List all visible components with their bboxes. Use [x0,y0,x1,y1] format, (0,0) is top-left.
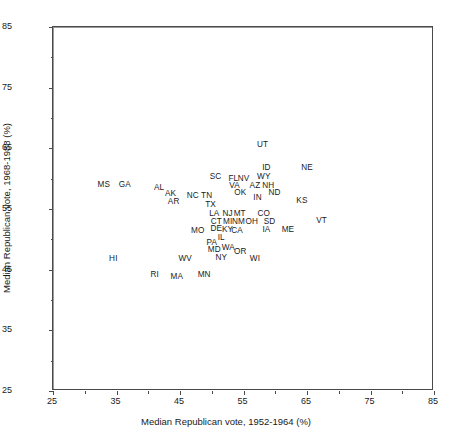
x-tick [212,391,213,394]
x-tick [307,391,308,395]
x-tick [180,391,181,395]
y-tick [49,391,53,392]
state-label-il: IL [218,233,225,241]
x-tick [148,391,149,394]
state-label-mn: MN [198,270,211,278]
y-tick [51,300,54,301]
state-label-id: ID [262,164,270,172]
state-label-wv: WV [178,255,191,263]
state-label-tn: TN [201,192,212,200]
x-tick [371,391,372,395]
y-tick [49,209,53,210]
x-tick-label: 85 [428,396,438,406]
state-label-nd: ND [269,189,281,197]
reference-line-vertical [53,27,54,389]
x-tick-label: 45 [174,396,184,406]
y-tick [51,361,54,362]
state-label-mo: MO [191,227,204,235]
state-label-hi: HI [109,255,117,263]
y-tick [51,57,54,58]
state-label-nc: NC [187,192,199,200]
state-label-ok: OK [234,189,246,197]
state-label-ar: AR [168,198,180,206]
x-tick [117,391,118,395]
y-tick [49,27,53,28]
x-tick-label: 35 [110,396,120,406]
y-tick-label: 75 [2,82,12,92]
state-label-nm: NM [232,218,245,226]
x-tick-label: 65 [301,396,311,406]
state-label-ny: NY [215,253,227,261]
x-tick [402,391,403,394]
y-tick [51,239,54,240]
plot-area: MSGAALAKARNCTNTXSCFLNVVAOKIDWYAZNHNDINUT… [52,26,433,390]
x-tick [434,391,435,395]
y-tick [49,148,53,149]
x-tick-label: 75 [364,396,374,406]
state-label-al: AL [154,184,164,192]
state-label-ia: IA [262,226,270,234]
scatter-plot-figure: MSGAALAKARNCTNTXSCFLNVVAOKIDWYAZNHNDINUT… [0,0,452,444]
state-label-wi: WI [250,255,260,263]
state-label-az: AZ [250,182,261,190]
state-label-or: OR [234,248,246,256]
state-label-oh: OH [246,218,258,226]
y-tick [49,88,53,89]
x-tick [85,391,86,394]
state-label-ks: KS [296,196,307,204]
x-tick [244,391,245,395]
y-tick-label: 25 [2,385,12,395]
state-label-ms: MS [98,181,110,189]
state-label-me: ME [282,226,294,234]
y-axis-title-wrap: Median Republican vote, 1968-1988 (%) [14,0,34,444]
state-label-in: IN [253,194,261,202]
state-label-ca: CA [231,227,243,235]
x-tick [275,391,276,394]
state-label-ga: GA [119,181,131,189]
y-axis-title: Median Republican vote, 1968-1988 (%) [1,123,12,293]
state-label-ut: UT [257,141,268,149]
y-tick [49,330,53,331]
state-label-vt: VT [316,217,327,225]
x-axis-title: Median Republican vote, 1952-1964 (%) [0,416,452,427]
state-label-ri: RI [150,270,158,278]
state-label-sc: SC [210,173,222,181]
state-label-wa: WA [222,244,235,252]
reference-line-horizontal [53,27,432,28]
y-tick-label: 35 [2,324,12,334]
x-tick [339,391,340,394]
y-tick [51,179,54,180]
x-tick-label: 25 [47,396,57,406]
y-tick [51,118,54,119]
x-tick [53,391,54,395]
x-tick-label: 55 [237,396,247,406]
y-tick-label: 85 [2,21,12,31]
state-label-ne: NE [301,164,313,172]
state-label-ma: MA [171,273,183,281]
y-tick [49,270,53,271]
